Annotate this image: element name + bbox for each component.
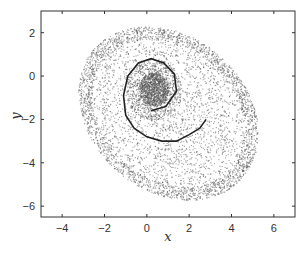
x-tick-label: 4	[228, 222, 234, 234]
x-axis-label: x	[164, 229, 172, 244]
x-tick-label: 2	[186, 222, 192, 234]
x-tick-label: 6	[271, 222, 277, 234]
y-tick-label: 2	[29, 27, 35, 39]
y-tick-label: −6	[22, 200, 35, 212]
x-tick-label: 0	[144, 222, 150, 234]
y-tick-label: 0	[29, 70, 35, 82]
x-tick-label: −4	[56, 222, 69, 234]
scatter-chart: −4−20246 20−2−4−6 x y	[0, 0, 306, 253]
x-axis-ticks: −4−20246	[56, 11, 277, 234]
x-tick-label: −2	[98, 222, 111, 234]
point-cloud	[78, 27, 258, 201]
y-axis-label: y	[8, 112, 23, 121]
y-tick-label: −4	[22, 157, 35, 169]
y-tick-label: −2	[22, 113, 35, 125]
